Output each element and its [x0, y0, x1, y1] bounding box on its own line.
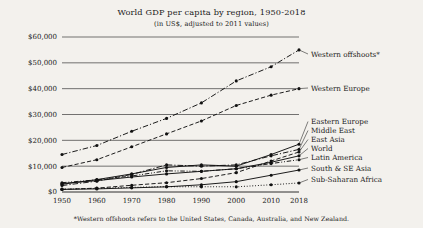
data-point	[130, 130, 133, 133]
y-axis-tick-0: $0	[48, 188, 57, 196]
series-leader-line	[299, 158, 308, 160]
y-axis-tick-50000: $50,000	[28, 59, 57, 67]
data-point	[95, 158, 98, 161]
data-point	[165, 163, 168, 166]
data-point	[165, 169, 168, 172]
data-point	[270, 174, 273, 177]
x-axis-tick-1960: 1960	[88, 197, 106, 205]
series-label: Latin America	[311, 153, 363, 162]
x-axis-tick-1950: 1950	[53, 197, 71, 205]
data-point	[235, 163, 238, 166]
series-line	[62, 50, 299, 155]
data-point	[165, 117, 168, 120]
data-point	[270, 183, 273, 186]
data-point	[60, 181, 63, 184]
chart-footnote: *Western offshoots refers to the United …	[0, 215, 423, 222]
y-axis-tick-40000: $40,000	[28, 85, 57, 93]
x-axis-tick-2000: 2000	[227, 197, 245, 205]
series-label: Western offshoots*	[311, 50, 380, 59]
data-point	[130, 174, 133, 177]
data-point	[95, 144, 98, 147]
chart-plot-area: $0$10,000$20,000$30,000$40,000$50,000$60…	[0, 0, 423, 228]
data-point	[165, 185, 168, 188]
data-point	[200, 101, 203, 104]
data-point	[200, 165, 203, 168]
data-point	[235, 167, 238, 170]
data-point	[60, 188, 63, 191]
data-point	[165, 181, 168, 184]
data-point	[200, 177, 203, 180]
series-leader-line	[299, 180, 308, 183]
data-point	[235, 180, 238, 183]
data-point	[200, 185, 203, 188]
series-east-asia: East Asia	[60, 135, 345, 191]
x-axis-tick-2010: 2010	[262, 197, 280, 205]
y-axis-tick-30000: $30,000	[28, 111, 57, 119]
y-axis-tick-60000: $60,000	[28, 33, 57, 41]
data-point	[235, 79, 238, 82]
data-point	[235, 171, 238, 174]
series-label: Western Europe	[311, 84, 370, 93]
series-leader-line	[299, 50, 308, 54]
data-point	[270, 154, 273, 157]
data-point	[95, 187, 98, 190]
data-point	[60, 166, 63, 169]
y-axis-tick-10000: $10,000	[28, 163, 57, 171]
series-label: East Asia	[311, 135, 346, 144]
x-axis-tick-1980: 1980	[158, 197, 176, 205]
x-axis-tick-2018: 2018	[290, 197, 308, 205]
data-point	[200, 119, 203, 122]
series-label: Middle East	[311, 126, 355, 135]
series-line	[62, 89, 299, 168]
x-axis-tick-1990: 1990	[192, 197, 210, 205]
data-point	[270, 94, 273, 97]
data-point	[165, 172, 168, 175]
data-point	[235, 104, 238, 107]
data-point	[60, 153, 63, 156]
y-axis-tick-20000: $20,000	[28, 137, 57, 145]
series-label: Sub-Saharan Africa	[311, 175, 383, 184]
data-point	[95, 178, 98, 181]
data-point	[130, 145, 133, 148]
data-point	[235, 185, 238, 188]
x-axis-tick-1970: 1970	[123, 197, 141, 205]
series-label: South & SE Asia	[311, 164, 372, 173]
series-leader-line	[299, 168, 308, 170]
series-label: Eastern Europe	[311, 117, 368, 126]
data-point	[270, 162, 273, 165]
series-label: World	[311, 144, 333, 153]
data-point	[165, 132, 168, 135]
data-point	[130, 186, 133, 189]
chart-figure: World GDP per capita by region, 1950-201…	[0, 0, 423, 228]
data-point	[270, 65, 273, 68]
data-point	[200, 170, 203, 173]
